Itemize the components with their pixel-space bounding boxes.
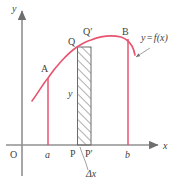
point-label-B: B [122,26,129,37]
x-axis-label: x [162,140,168,151]
point-label-Q: Q [68,36,76,47]
point-label-P-prime: P′ [85,148,93,159]
integral-area-diagram: y x O a b A B Q Q′ P P′ y Δx y = f(x) [0,0,180,185]
tick-label-a: a [45,149,50,160]
point-label-P: P [70,148,76,159]
function-equation-label: y = f(x) [140,32,168,44]
area-strip [78,47,92,145]
strip-height-label: y [67,88,73,99]
strip-hatch-fill [78,47,92,145]
tick-label-b: b [125,149,130,160]
point-label-Q-prime: Q′ [83,26,92,37]
figure-root: y x O a b A B Q Q′ P P′ y Δx y = f(x) [0,0,180,185]
origin-label: O [10,149,17,160]
function-label-pointer [136,48,150,57]
y-axis-label: y [11,3,17,14]
strip-width-label: Δx [85,168,97,179]
point-label-A: A [41,63,49,74]
